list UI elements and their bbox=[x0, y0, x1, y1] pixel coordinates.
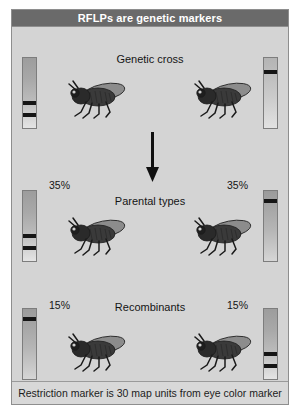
drosophila-fly-icon bbox=[188, 328, 254, 374]
gel-lane-recombinant-left bbox=[22, 308, 37, 380]
drosophila-fly-icon bbox=[62, 75, 128, 121]
stage-label-genetic-cross: Genetic cross bbox=[12, 53, 288, 65]
figure-caption: Restriction marker is 30 map units from … bbox=[18, 387, 282, 399]
drosophila-fly-icon bbox=[188, 212, 254, 258]
drosophila-fly-icon bbox=[188, 75, 254, 121]
gel-band bbox=[23, 101, 36, 105]
percent-label-recombinant-right: 15% bbox=[227, 299, 248, 311]
gel-lane-recombinant-right bbox=[263, 308, 278, 380]
drosophila-fly-icon bbox=[62, 328, 128, 374]
figure-panel: RFLPs are genetic markers Genetic cross bbox=[11, 9, 289, 405]
figure-body: Genetic cross bbox=[12, 27, 288, 381]
gel-band bbox=[23, 234, 36, 238]
gel-lane-cross-left bbox=[22, 57, 37, 129]
gel-band bbox=[264, 352, 277, 356]
percent-label-parental-right: 35% bbox=[227, 179, 248, 191]
stage-label-parental-types: Parental types bbox=[12, 195, 288, 207]
gel-lane-cross-right bbox=[263, 57, 278, 129]
gel-band bbox=[264, 70, 277, 74]
gel-band bbox=[23, 246, 36, 250]
rflp-figure: RFLPs are genetic markers Genetic cross bbox=[0, 0, 300, 414]
gel-lane-parental-right bbox=[263, 190, 278, 262]
percent-label-parental-left: 35% bbox=[49, 179, 70, 191]
figure-caption-bar: Restriction marker is 30 map units from … bbox=[12, 381, 288, 404]
gel-band bbox=[264, 199, 277, 203]
gel-band bbox=[23, 317, 36, 321]
gel-lane-parental-left bbox=[22, 190, 37, 262]
percent-label-recombinant-left: 15% bbox=[49, 299, 70, 311]
page-title: RFLPs are genetic markers bbox=[78, 12, 222, 24]
drosophila-fly-icon bbox=[62, 212, 128, 258]
figure-title-bar: RFLPs are genetic markers bbox=[12, 10, 288, 27]
gel-band bbox=[264, 364, 277, 368]
gel-band bbox=[23, 113, 36, 117]
downward-arrow-icon bbox=[144, 132, 162, 182]
